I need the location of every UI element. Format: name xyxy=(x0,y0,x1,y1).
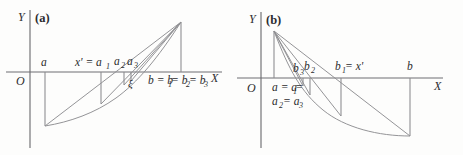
panel-b-label-b1-tail: = xʹ xyxy=(345,60,364,72)
panel-b-label-b2-main: b xyxy=(304,60,310,72)
panel-b-label-b: b xyxy=(407,60,413,72)
panel-a-label-a2-main: a xyxy=(114,55,120,67)
panel-a-label-a2: a 2 xyxy=(114,55,125,70)
panel-b-label-a-chain-line1: a = a 1 = xyxy=(272,81,303,96)
panel-b-y-axis-label: Y xyxy=(249,12,257,26)
panel-b-label-a-chain-line2-sub2: 3 xyxy=(298,101,303,110)
panel-a: (a) Y X O a xʹ = a 1 a 2 a 3 ξ b = b 1 =… xyxy=(0,0,232,155)
panel-b-label-b1-main: b xyxy=(335,60,341,72)
panel-a-label-xprime-eq-a1: xʹ = a 1 xyxy=(74,56,110,71)
figure-root: (a) Y X O a xʹ = a 1 a 2 a 3 ξ b = b 1 =… xyxy=(0,0,463,155)
panel-a-origin-label: O xyxy=(16,74,25,88)
panel-b-label-b2-sub: 2 xyxy=(311,66,315,75)
panel-a-label-a2-sub: 2 xyxy=(121,61,125,70)
panel-a-label-a1-sub: 1 xyxy=(106,62,110,71)
panel-a-label-xprime-eq-a1-main: xʹ = a xyxy=(74,56,102,68)
panel-b-label-a-chain-line1-tail: = xyxy=(296,81,303,93)
panel-b-label-a-chain-line2-main: a xyxy=(272,95,278,107)
panel-a-label-b-chain: b = b 1 = b 2 = b 3 xyxy=(148,74,208,89)
panel-a-label-b-chain-sub3: 3 xyxy=(203,80,208,89)
panel-b-label-a-chain-line2-mid: = a xyxy=(283,95,300,107)
panel-b-label-a-chain-line2: a 2 = a 3 xyxy=(272,95,303,110)
panel-a-chord-a1b1 xyxy=(101,22,181,104)
panel-a-label-xi: ξ xyxy=(128,77,133,90)
panel-b-label-b1-eq-xprime: b 1 = xʹ xyxy=(335,60,364,75)
panel-a-label-a: a xyxy=(41,56,47,68)
panel-b-label-b3-main: b xyxy=(293,62,299,74)
panel-a-label-a3-sub: 3 xyxy=(133,61,138,70)
panel-a-label-a3: a 3 xyxy=(127,55,138,70)
panel-b-origin-label: O xyxy=(247,81,256,95)
panel-a-x-axis-label: X xyxy=(210,71,219,85)
panel-b-x-axis-label: X xyxy=(433,79,442,93)
panel-b-tag: (b) xyxy=(266,13,281,27)
panel-a-label-a3-main: a xyxy=(127,55,133,67)
panel-b-label-b2: b 2 xyxy=(304,60,315,75)
panel-b: (b) Y X O a = a 1 = a 2 = a 3 b 3 b 2 b xyxy=(231,0,463,155)
panel-a-y-axis-label: Y xyxy=(18,10,26,24)
panel-a-tag: (a) xyxy=(35,11,50,25)
